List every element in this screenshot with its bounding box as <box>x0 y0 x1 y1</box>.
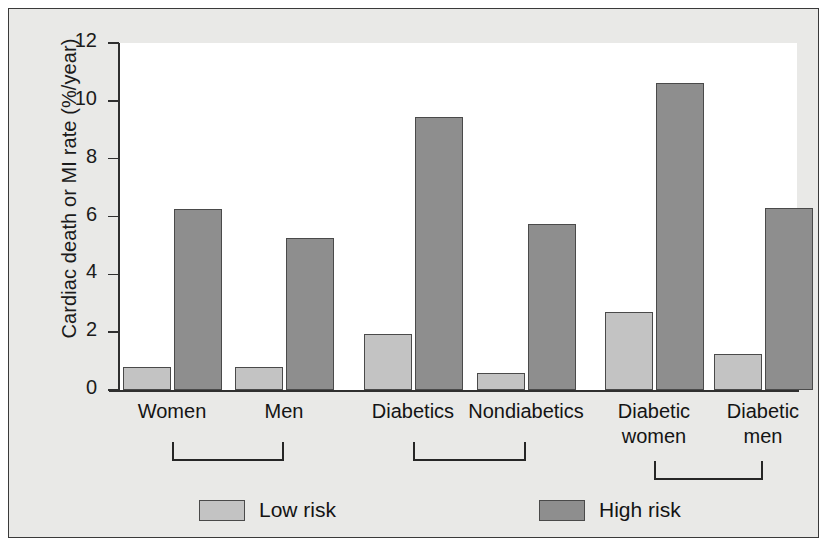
bar-diabetic-men-high-risk <box>765 208 813 390</box>
y-tick-0 <box>108 389 119 391</box>
legend-item-high-risk: High risk <box>539 498 681 522</box>
y-axis-label: Cardiac death or MI rate (%/year) <box>58 9 81 369</box>
legend-item-low-risk: Low risk <box>199 498 336 522</box>
bar-nondiabetics-high-risk <box>528 224 576 390</box>
chart-figure: Cardiac death or MI rate (%/year) 024681… <box>8 8 819 538</box>
bar-diabetic-men-low-risk <box>714 354 762 390</box>
legend-label-high-risk: High risk <box>599 498 681 522</box>
legend-label-low-risk: Low risk <box>259 498 336 522</box>
group-bracket-1 <box>172 442 284 461</box>
bar-diabetic-women-high-risk <box>656 83 704 390</box>
y-tick-label-8: 8 <box>57 145 97 168</box>
y-tick-8 <box>108 158 119 160</box>
bar-men-low-risk <box>235 367 283 390</box>
y-tick-label-2: 2 <box>57 318 97 341</box>
y-axis-line <box>118 43 120 392</box>
y-tick-2 <box>108 331 119 333</box>
y-tick-12 <box>108 42 119 44</box>
bar-women-high-risk <box>174 209 222 390</box>
y-tick-label-6: 6 <box>57 203 97 226</box>
bar-diabetics-low-risk <box>364 334 412 390</box>
y-tick-label-10: 10 <box>57 87 97 110</box>
y-tick-label-12: 12 <box>57 29 97 52</box>
y-tick-10 <box>108 100 119 102</box>
bar-women-low-risk <box>123 367 171 390</box>
x-axis-line <box>109 390 799 392</box>
legend-swatch-low <box>199 500 245 521</box>
group-bracket-3 <box>654 461 763 480</box>
legend-swatch-high <box>539 500 585 521</box>
bar-diabetics-high-risk <box>415 117 463 390</box>
bar-men-high-risk <box>286 238 334 390</box>
y-tick-label-4: 4 <box>57 260 97 283</box>
category-label-diabetic-men: Diabetic men <box>673 399 827 449</box>
group-bracket-2 <box>413 442 526 461</box>
bar-nondiabetics-low-risk <box>477 373 525 390</box>
y-tick-6 <box>108 216 119 218</box>
y-tick-label-0: 0 <box>57 376 97 399</box>
y-tick-4 <box>108 274 119 276</box>
bar-diabetic-women-low-risk <box>605 312 653 390</box>
